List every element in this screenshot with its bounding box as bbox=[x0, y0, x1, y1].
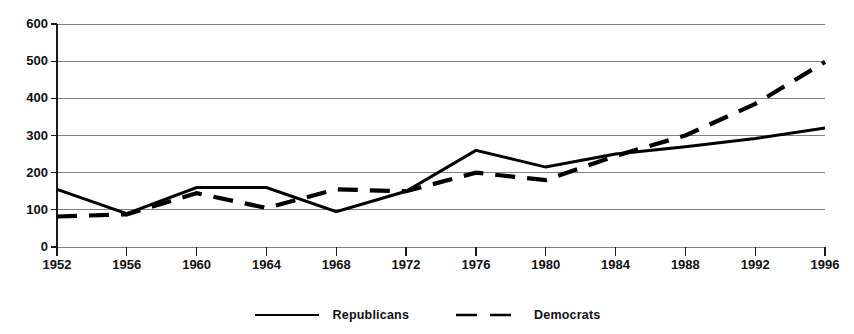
x-axis-label-1972: 1972 bbox=[376, 258, 436, 271]
x-axis-label-1976: 1976 bbox=[446, 258, 506, 271]
series-line-republicans bbox=[57, 128, 825, 213]
series-line-democrats bbox=[57, 62, 825, 217]
y-axis-label-500: 500 bbox=[2, 54, 48, 67]
y-axis-label-0: 0 bbox=[2, 240, 48, 253]
legend-item-republicans: Republicans bbox=[254, 309, 410, 322]
x-axis-label-1992: 1992 bbox=[725, 258, 785, 271]
legend-label-democrats: Democrats bbox=[534, 309, 600, 322]
y-axis-tick-labels: 0100200300400500600 bbox=[0, 0, 48, 260]
x-axis-label-1984: 1984 bbox=[586, 258, 646, 271]
plot-svg bbox=[0, 0, 854, 290]
x-axis-label-1952: 1952 bbox=[27, 258, 87, 271]
legend-swatch-solid-icon bbox=[254, 310, 320, 320]
y-axis-label-400: 400 bbox=[2, 91, 48, 104]
y-axis-label-200: 200 bbox=[2, 166, 48, 179]
chart-legend: Republicans Democrats bbox=[0, 300, 854, 330]
x-axis-tick-labels: 1952195619601964196819721976198019841988… bbox=[0, 258, 854, 284]
legend-swatch-dashed-icon bbox=[455, 310, 521, 320]
x-axis-label-1988: 1988 bbox=[655, 258, 715, 271]
x-axis-label-1960: 1960 bbox=[167, 258, 227, 271]
x-axis-label-1956: 1956 bbox=[97, 258, 157, 271]
x-axis-label-1964: 1964 bbox=[236, 258, 296, 271]
x-axis-label-1996: 1996 bbox=[795, 258, 854, 271]
x-axis-label-1980: 1980 bbox=[516, 258, 576, 271]
y-axis-label-600: 600 bbox=[2, 17, 48, 30]
legend-item-democrats: Democrats bbox=[455, 309, 600, 322]
line-chart: 0100200300400500600 19521956196019641968… bbox=[0, 0, 854, 334]
y-axis-label-300: 300 bbox=[2, 129, 48, 142]
x-axis-label-1968: 1968 bbox=[306, 258, 366, 271]
legend-label-republicans: Republicans bbox=[333, 309, 410, 322]
plot-area bbox=[0, 0, 854, 290]
y-axis-label-100: 100 bbox=[2, 203, 48, 216]
